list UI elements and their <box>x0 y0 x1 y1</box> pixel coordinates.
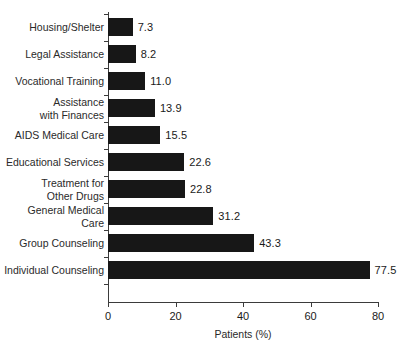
x-axis-tick-label: 40 <box>237 310 249 322</box>
y-axis-tick <box>104 284 108 285</box>
bar-row: Treatment for Other Drugs22.8 <box>108 176 378 203</box>
bar-value-label: 11.0 <box>150 72 171 90</box>
y-axis-tick <box>104 41 108 42</box>
bar <box>108 234 254 252</box>
category-label: Assistance with Finances <box>40 96 104 121</box>
category-label-container: Assistance with Finances <box>2 95 104 122</box>
y-axis-tick <box>104 14 108 15</box>
x-axis-tick <box>311 302 312 307</box>
bar-row: Vocational Training11.0 <box>108 68 378 95</box>
category-label: Vocational Training <box>15 75 104 88</box>
bar <box>108 99 155 117</box>
bar-value-label: 7.3 <box>138 18 154 36</box>
category-label-container: Educational Services <box>2 149 104 176</box>
x-axis-tick <box>108 302 109 307</box>
bar-row: Group Counseling43.3 <box>108 230 378 257</box>
category-label-container: Legal Assistance <box>2 41 104 68</box>
category-label: General Medical Care <box>2 204 104 229</box>
bar <box>108 45 136 63</box>
bar-row: Individual Counseling77.5 <box>108 257 378 284</box>
x-axis-tick <box>176 302 177 307</box>
bar-row: Educational Services22.6 <box>108 149 378 176</box>
bar-chart: Housing/Shelter7.3Legal Assistance8.2Voc… <box>0 0 402 347</box>
bar-row: Housing/Shelter7.3 <box>108 14 378 41</box>
bar-row: General Medical Care31.2 <box>108 203 378 230</box>
y-axis-tick <box>104 68 108 69</box>
bar-value-label: 22.8 <box>190 180 212 198</box>
bar <box>108 207 213 225</box>
bar <box>108 126 160 144</box>
category-label: Individual Counseling <box>4 264 104 277</box>
bar <box>108 180 185 198</box>
y-axis-tick <box>104 176 108 177</box>
category-label-container: Individual Counseling <box>2 257 104 284</box>
bar-value-label: 22.6 <box>189 153 211 171</box>
x-axis-title: Patients (%) <box>108 328 378 340</box>
bar <box>108 261 370 279</box>
bar <box>108 18 133 36</box>
bar-value-label: 31.2 <box>218 207 240 225</box>
y-axis-tick <box>104 122 108 123</box>
bar-row: Assistance with Finances13.9 <box>108 95 378 122</box>
category-label-container: Vocational Training <box>2 68 104 95</box>
x-axis-tick <box>243 302 244 307</box>
x-axis-tick-label: 60 <box>304 310 316 322</box>
y-axis-tick <box>104 257 108 258</box>
x-axis-tick-label: 0 <box>105 310 111 322</box>
bar-value-label: 43.3 <box>259 234 281 252</box>
category-label-container: Housing/Shelter <box>2 14 104 41</box>
bar-value-label: 8.2 <box>141 45 157 63</box>
bar-row: AIDS Medical Care15.5 <box>108 122 378 149</box>
category-label: AIDS Medical Care <box>15 129 104 142</box>
y-axis-tick <box>104 203 108 204</box>
y-axis-tick <box>104 149 108 150</box>
category-label: Group Counseling <box>19 237 104 250</box>
x-axis-tick <box>378 302 379 307</box>
category-label-container: AIDS Medical Care <box>2 122 104 149</box>
bar-value-label: 77.5 <box>375 261 397 279</box>
category-label-container: General Medical Care <box>2 203 104 230</box>
bar-value-label: 15.5 <box>165 126 187 144</box>
bar <box>108 72 145 90</box>
y-axis-tick <box>104 95 108 96</box>
bar-value-label: 13.9 <box>160 99 182 117</box>
category-label-container: Treatment for Other Drugs <box>2 176 104 203</box>
category-label: Educational Services <box>6 156 104 169</box>
bar <box>108 153 184 171</box>
bar-row: Legal Assistance8.2 <box>108 41 378 68</box>
x-axis-tick-label: 20 <box>169 310 181 322</box>
x-axis-tick-label: 80 <box>372 310 384 322</box>
category-label: Treatment for Other Drugs <box>41 177 104 202</box>
plot-area: Housing/Shelter7.3Legal Assistance8.2Voc… <box>108 12 378 302</box>
category-label: Housing/Shelter <box>29 21 104 34</box>
y-axis-tick <box>104 230 108 231</box>
category-label-container: Group Counseling <box>2 230 104 257</box>
category-label: Legal Assistance <box>25 48 104 61</box>
